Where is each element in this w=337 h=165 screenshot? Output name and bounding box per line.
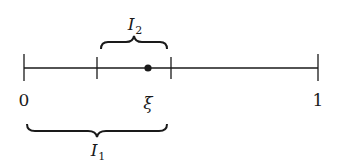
label-i1-subscript: 1	[98, 150, 105, 163]
point-xi-marker	[144, 64, 151, 71]
label-zero: 0	[19, 92, 30, 109]
brace-i2	[101, 36, 167, 49]
number-line-diagram: 0 1 ξ I2 I1	[0, 0, 337, 165]
brace-i1	[27, 124, 167, 137]
label-one: 1	[313, 92, 324, 109]
label-i1: I1	[91, 142, 106, 162]
label-i2-main: I	[128, 14, 135, 34]
label-i2: I2	[128, 16, 143, 36]
label-i2-subscript: 2	[135, 24, 142, 37]
label-i1-main: I	[91, 140, 98, 160]
label-xi: ξ	[143, 95, 152, 112]
diagram-graphics	[0, 0, 337, 165]
